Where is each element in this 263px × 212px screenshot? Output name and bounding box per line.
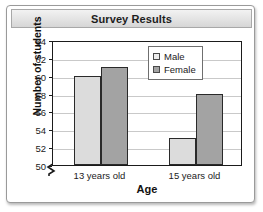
y-tick-label: 62 (26, 53, 46, 64)
y-tick-label: 60 (26, 71, 46, 82)
x-axis-title: Age (52, 183, 242, 195)
y-tick-label: 52 (26, 143, 46, 154)
plot-area (52, 41, 242, 166)
y-tick-mark (49, 77, 52, 78)
y-tick-mark (49, 41, 52, 42)
bar-male-0 (74, 76, 101, 165)
y-tick-mark (49, 130, 52, 131)
y-tick-mark (49, 166, 52, 167)
bar-female-0 (101, 67, 128, 165)
chart-figure: Survey Results Number of students Male F… (6, 5, 255, 203)
x-tick-label: 13 years old (74, 170, 126, 181)
y-tick-mark (49, 59, 52, 60)
legend-item-male: Male (153, 50, 196, 63)
chart-canvas: Number of students Male Female Age 50525… (7, 30, 255, 202)
y-tick-label: 64 (26, 36, 46, 47)
chart-legend: Male Female (148, 46, 203, 80)
legend-label-male: Male (164, 51, 185, 62)
legend-swatch-female-icon (153, 66, 160, 73)
bar-female-1 (196, 94, 223, 165)
y-tick-label: 56 (26, 107, 46, 118)
legend-label-female: Female (164, 64, 196, 75)
y-tick-mark (49, 95, 52, 96)
chart-title-banner: Survey Results (11, 9, 252, 28)
legend-swatch-male-icon (153, 53, 160, 60)
legend-item-female: Female (153, 63, 196, 76)
gridline (53, 60, 241, 61)
y-tick-label: 58 (26, 89, 46, 100)
bar-male-1 (169, 138, 196, 165)
y-tick-label: 50 (26, 161, 46, 172)
y-tick-mark (49, 112, 52, 113)
y-tick-mark (49, 148, 52, 149)
y-tick-label: 54 (26, 125, 46, 136)
x-tick-label: 15 years old (169, 170, 221, 181)
chart-title: Survey Results (91, 13, 172, 25)
